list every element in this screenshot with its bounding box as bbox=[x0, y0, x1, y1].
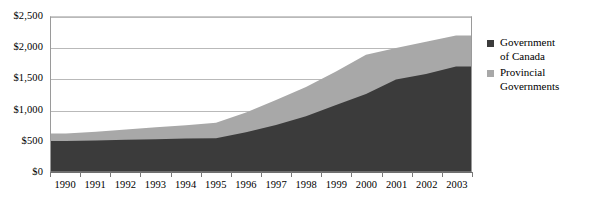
x-axis-tick bbox=[201, 172, 202, 177]
x-axis-tick-label: 1992 bbox=[115, 178, 136, 191]
x-axis-tick bbox=[321, 172, 322, 177]
x-axis-tick bbox=[110, 172, 111, 177]
x-axis-tick-label: 2000 bbox=[356, 178, 377, 191]
x-axis-tick bbox=[231, 172, 232, 177]
x-axis-tick bbox=[412, 172, 413, 177]
x-axis-tick-label: 1995 bbox=[205, 178, 226, 191]
x-axis-tick-label: 2002 bbox=[416, 178, 437, 191]
x-axis-tick-label: 1994 bbox=[175, 178, 196, 191]
x-axis-tick bbox=[291, 172, 292, 177]
x-axis-tick-label: 2003 bbox=[446, 178, 467, 191]
chart-legend: Government of CanadaProvincial Governmen… bbox=[487, 36, 605, 96]
legend-item-label: Government of Canada bbox=[500, 36, 555, 63]
x-axis-tick bbox=[442, 172, 443, 177]
y-axis-tick-label: $2,500 bbox=[14, 11, 43, 21]
x-axis-tick-label: 1990 bbox=[54, 178, 75, 191]
legend-swatch-provincial-governments bbox=[487, 70, 494, 77]
legend-item[interactable]: Provincial Governments bbox=[487, 66, 605, 93]
plot-area bbox=[50, 16, 472, 172]
x-axis-tick-label: 2001 bbox=[386, 178, 407, 191]
x-axis-tick bbox=[80, 172, 81, 177]
x-axis-tick-label: 1999 bbox=[326, 178, 347, 191]
y-axis-tick-label: $500 bbox=[22, 136, 43, 146]
y-axis-tick-label: $0 bbox=[32, 167, 43, 177]
legend-item[interactable]: Government of Canada bbox=[487, 36, 605, 63]
x-axis-tick bbox=[171, 172, 172, 177]
x-axis-tick bbox=[472, 172, 473, 177]
y-axis-tick-label: $2,000 bbox=[14, 42, 43, 52]
x-axis-tick bbox=[382, 172, 383, 177]
legend-item-label: Provincial Governments bbox=[500, 66, 559, 93]
x-axis-labels: 1990199119921993199419951996199719981999… bbox=[50, 178, 472, 198]
x-axis-tick bbox=[261, 172, 262, 177]
y-axis-tick-label: $1,500 bbox=[14, 73, 43, 83]
x-axis-tick-label: 1997 bbox=[265, 178, 286, 191]
x-axis-tick bbox=[140, 172, 141, 177]
y-axis-tick-label: $1,000 bbox=[14, 105, 43, 115]
x-axis-tick-label: 1991 bbox=[84, 178, 105, 191]
x-axis-ticks bbox=[50, 172, 472, 177]
x-axis-tick-label: 1993 bbox=[145, 178, 166, 191]
x-axis-tick-label: 1996 bbox=[235, 178, 256, 191]
x-axis-tick-label: 1998 bbox=[295, 178, 316, 191]
x-axis-tick bbox=[50, 172, 51, 177]
x-axis-tick bbox=[351, 172, 352, 177]
legend-swatch-government-of-canada bbox=[487, 40, 494, 47]
stacked-area-series bbox=[51, 17, 471, 172]
chart-figure: $0$500$1,000$1,500$2,000$2,500 199019911… bbox=[0, 0, 607, 209]
y-axis-labels: $0$500$1,000$1,500$2,000$2,500 bbox=[0, 0, 46, 209]
